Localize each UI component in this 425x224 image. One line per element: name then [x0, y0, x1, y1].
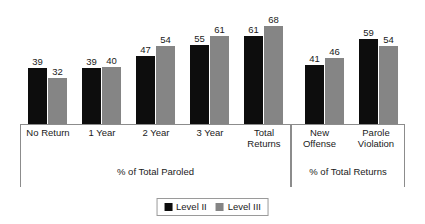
legend-label-level-3: Level III — [228, 201, 261, 212]
bar-value-level3: 68 — [268, 14, 279, 25]
bar-group-new-offense: 41 46 — [300, 0, 345, 124]
legend-item-level-3[interactable]: Level III — [216, 201, 261, 212]
legend-swatch-icon-level-3 — [216, 203, 224, 211]
bar-level2[interactable] — [82, 68, 101, 124]
bar-value-level2: 55 — [194, 33, 205, 44]
bar-level2[interactable] — [136, 56, 155, 124]
bar-level3[interactable] — [210, 36, 229, 124]
chart-legend: Level II Level III — [156, 198, 269, 216]
legend-label-level-2: Level II — [176, 201, 207, 212]
bar-group-3-year: 55 61 — [185, 0, 230, 124]
plot-area: 39 32 39 40 47 — [0, 0, 425, 124]
bar-level3[interactable] — [102, 67, 121, 124]
bar-value-level3: 54 — [383, 34, 394, 45]
bar-group-1-year: 39 40 — [77, 0, 122, 124]
category-label-3-year: 3 Year — [184, 128, 236, 139]
bar-group-no-return: 39 32 — [23, 0, 68, 124]
bar-level3[interactable] — [156, 46, 175, 124]
category-label-parole-violation: Parole Violation — [347, 128, 405, 149]
bar-level2[interactable] — [244, 36, 263, 124]
section-caption-total-paroled: % of Total Paroled — [21, 166, 290, 177]
bar-value-level2: 61 — [248, 24, 259, 35]
bar-group-2-year: 47 54 — [131, 0, 176, 124]
category-label-new-offense: New Offense — [292, 128, 347, 149]
bar-level3[interactable] — [379, 46, 398, 124]
bar-group-parole-violation: 59 54 — [354, 0, 399, 124]
bar-value-level3: 32 — [52, 66, 63, 77]
bar-level2[interactable] — [190, 45, 209, 124]
category-label-no-return: No Return — [20, 128, 76, 139]
legend-item-level-2[interactable]: Level II — [164, 201, 207, 212]
bar-value-level2: 47 — [140, 44, 151, 55]
bar-value-level3: 46 — [329, 46, 340, 57]
bar-level2[interactable] — [28, 68, 47, 124]
bar-level3[interactable] — [264, 26, 283, 124]
bar-level3[interactable] — [325, 58, 344, 124]
section-caption-total-returns: % of Total Returns — [292, 166, 404, 177]
category-label-2-year: 2 Year — [130, 128, 182, 139]
bar-value-level2: 39 — [32, 56, 43, 67]
bar-value-level2: 59 — [363, 27, 374, 38]
bar-level3[interactable] — [48, 78, 67, 124]
bar-value-level3: 54 — [160, 34, 171, 45]
legend-swatch-icon-level-2 — [164, 203, 172, 211]
category-label-1-year: 1 Year — [76, 128, 128, 139]
bar-level2[interactable] — [359, 39, 378, 124]
bar-value-level3: 40 — [106, 55, 117, 66]
bar-value-level2: 39 — [86, 56, 97, 67]
bar-value-level3: 61 — [214, 24, 225, 35]
bar-value-level2: 41 — [309, 53, 320, 64]
section-box-total-paroled: No Return 1 Year 2 Year 3 Year Total Ret… — [20, 124, 291, 187]
bar-group-total-returns: 61 68 — [239, 0, 284, 124]
category-label-total-returns: Total Returns — [236, 128, 292, 149]
bar-chart: 39 32 39 40 47 — [0, 0, 425, 224]
bar-level2[interactable] — [305, 65, 324, 124]
section-box-total-returns: New Offense Parole Violation % of Total … — [291, 124, 405, 187]
